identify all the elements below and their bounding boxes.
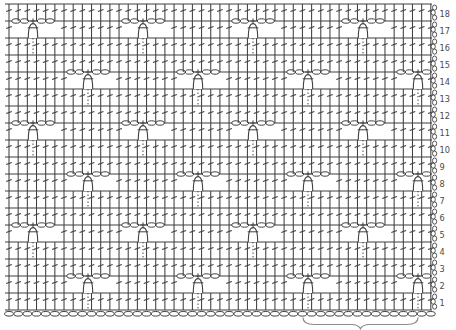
double-crochet-symbol	[336, 225, 342, 242]
chain-symbol	[156, 19, 164, 23]
double-crochet-symbol	[144, 89, 150, 106]
puff-stitch-symbol	[138, 228, 149, 242]
double-crochet-symbol	[116, 259, 122, 276]
double-crochet-symbol	[162, 106, 168, 123]
double-crochet-symbol	[25, 242, 31, 259]
double-crochet-symbol	[15, 293, 21, 310]
double-crochet-symbol	[336, 242, 342, 259]
double-crochet-symbol	[52, 72, 58, 89]
single-crochet-symbol	[85, 69, 90, 74]
double-crochet-symbol	[162, 4, 168, 21]
double-crochet-symbol	[355, 140, 361, 157]
double-crochet-symbol	[281, 157, 287, 174]
chain-symbol	[41, 312, 50, 317]
double-crochet-symbol	[171, 72, 177, 89]
double-crochet-symbol	[318, 225, 324, 242]
double-crochet-symbol	[235, 157, 241, 174]
double-crochet-symbol	[235, 242, 241, 259]
double-crochet-symbol	[373, 140, 379, 157]
turning-chain-symbol	[431, 294, 437, 309]
double-crochet-symbol	[125, 89, 131, 106]
double-crochet-symbol	[61, 225, 67, 242]
double-crochet-symbol	[290, 89, 296, 106]
double-crochet-symbol	[52, 4, 58, 21]
double-crochet-symbol	[34, 55, 40, 72]
double-crochet-symbol	[116, 21, 122, 38]
chain-symbol	[133, 312, 142, 317]
double-crochet-symbol	[336, 89, 342, 106]
puff-stitch-symbol	[83, 75, 94, 89]
double-crochet-symbol	[89, 259, 95, 276]
double-crochet-symbol	[52, 293, 58, 310]
double-crochet-symbol	[245, 38, 251, 55]
double-crochet-symbol	[80, 38, 86, 55]
double-crochet-symbol	[391, 208, 397, 225]
double-crochet-symbol	[89, 208, 95, 225]
double-crochet-symbol	[401, 106, 407, 123]
double-crochet-symbol	[116, 293, 122, 310]
double-crochet-symbol	[107, 157, 113, 174]
double-crochet-symbol	[336, 123, 342, 140]
double-crochet-symbol	[281, 259, 287, 276]
double-crochet-symbol	[226, 55, 232, 72]
chart-row: 18	[6, 4, 450, 21]
chain-symbol	[232, 223, 240, 227]
double-crochet-symbol	[391, 55, 397, 72]
chart-row: 1	[6, 293, 445, 310]
double-crochet-symbol	[144, 38, 150, 55]
puff-motif	[397, 273, 431, 309]
double-crochet-symbol	[25, 89, 31, 106]
double-crochet-symbol	[391, 225, 397, 242]
double-crochet-symbol	[208, 106, 214, 123]
double-crochet-symbol	[180, 225, 186, 242]
double-crochet-symbol	[107, 191, 113, 208]
double-crochet-symbol	[125, 293, 131, 310]
double-crochet-symbol	[272, 276, 278, 293]
double-crochet-symbol	[98, 140, 104, 157]
double-crochet-symbol	[364, 72, 370, 89]
double-crochet-symbol	[382, 293, 388, 310]
double-crochet-symbol	[290, 208, 296, 225]
double-crochet-symbol	[345, 157, 351, 174]
double-crochet-symbol	[364, 276, 370, 293]
double-crochet-symbol	[281, 174, 287, 191]
double-crochet-symbol	[217, 293, 223, 310]
double-crochet-symbol	[6, 140, 12, 157]
double-crochet-symbol	[217, 208, 223, 225]
chain-symbol	[397, 274, 405, 278]
double-crochet-symbol	[272, 140, 278, 157]
double-crochet-symbol	[52, 38, 58, 55]
chart-row: 15	[6, 55, 450, 72]
puff-stitch-symbol	[193, 279, 204, 293]
double-crochet-symbol	[125, 140, 131, 157]
chain-symbol	[321, 172, 329, 176]
double-crochet-symbol	[355, 242, 361, 259]
double-crochet-symbol	[6, 293, 12, 310]
double-crochet-symbol	[43, 208, 49, 225]
double-crochet-symbol	[153, 55, 159, 72]
double-crochet-symbol	[52, 140, 58, 157]
double-crochet-symbol	[226, 140, 232, 157]
double-crochet-symbol	[254, 174, 260, 191]
double-crochet-symbol	[199, 208, 205, 225]
double-crochet-symbol	[391, 259, 397, 276]
double-crochet-symbol	[116, 72, 122, 89]
double-crochet-symbol	[345, 259, 351, 276]
double-crochet-symbol	[419, 140, 425, 157]
chain-symbol	[60, 312, 69, 317]
double-crochet-symbol	[89, 293, 95, 310]
chain-symbol	[232, 121, 240, 125]
double-crochet-symbol	[34, 157, 40, 174]
double-crochet-symbol	[61, 89, 67, 106]
double-crochet-symbol	[391, 140, 397, 157]
chain-symbol	[399, 312, 408, 317]
turning-chain-symbol	[431, 243, 437, 258]
chain-symbol	[312, 274, 320, 278]
chain-symbol	[225, 312, 234, 317]
double-crochet-symbol	[43, 242, 49, 259]
double-crochet-symbol	[290, 225, 296, 242]
double-crochet-symbol	[125, 174, 131, 191]
double-crochet-symbol	[162, 140, 168, 157]
double-crochet-symbol	[52, 208, 58, 225]
double-crochet-symbol	[419, 89, 425, 106]
